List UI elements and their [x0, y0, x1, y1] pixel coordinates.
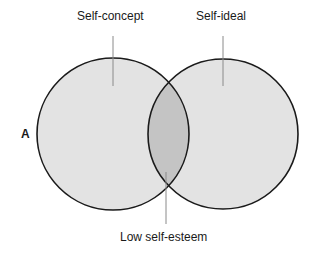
- low-self-esteem-label: Low self-esteem: [120, 230, 207, 244]
- venn-diagram: [0, 0, 314, 257]
- panel-letter: A: [21, 127, 30, 141]
- self-concept-label: Self-concept: [77, 9, 144, 23]
- self-ideal-label: Self-ideal: [196, 9, 246, 23]
